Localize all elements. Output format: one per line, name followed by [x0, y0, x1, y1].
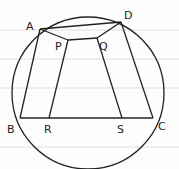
- inner-polygon: [40, 22, 122, 118]
- circumcircle: [12, 17, 164, 169]
- geometry-diagram: A D P Q B R S C: [0, 0, 179, 169]
- label-P: P: [55, 40, 62, 53]
- label-S: S: [117, 123, 124, 136]
- segment-AP: [40, 29, 68, 40]
- label-B: B: [7, 123, 15, 136]
- label-R: R: [44, 123, 52, 136]
- segment-DC: [121, 22, 153, 118]
- segment-PQ: [68, 38, 97, 40]
- label-D: D: [124, 9, 132, 22]
- label-Q: Q: [99, 40, 108, 53]
- segment-AB: [20, 29, 40, 118]
- label-A: A: [26, 20, 34, 33]
- label-C: C: [158, 120, 166, 133]
- quadrilateral-ABCD: [20, 22, 153, 118]
